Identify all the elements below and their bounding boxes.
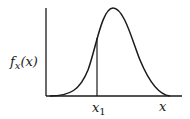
density-curve (50, 8, 170, 96)
x-axis-label: x (159, 99, 167, 114)
density-diagram: fx(x) x1 x (0, 0, 190, 119)
x1-label: x1 (92, 100, 106, 117)
y-axis-label: fx(x) (9, 54, 38, 71)
